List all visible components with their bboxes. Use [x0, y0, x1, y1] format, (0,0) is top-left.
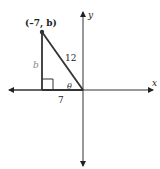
x-axis-label: x — [152, 78, 157, 88]
y-axis-label: y — [87, 10, 94, 20]
right-angle-marker — [42, 79, 53, 90]
vertical-leg-label: b — [33, 60, 39, 70]
horizontal-leg-label: 7 — [58, 95, 64, 105]
vertex-point — [40, 30, 44, 34]
angle-theta-label: θ — [67, 82, 72, 91]
point-label: (–7, b) — [25, 18, 57, 29]
coordinate-diagram: (–7, b) 12 b 7 θ x y — [0, 0, 160, 169]
hypotenuse-label: 12 — [65, 53, 76, 63]
hypotenuse — [42, 32, 83, 90]
